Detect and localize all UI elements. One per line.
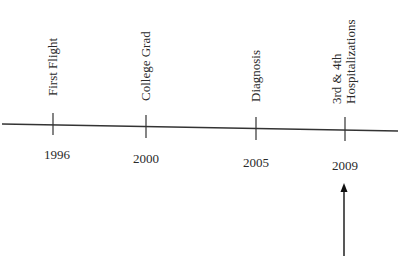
timeline-axis xyxy=(2,124,398,131)
year-label-1996: 1996 xyxy=(44,147,70,163)
event-label-college-grad: College Grad xyxy=(139,31,153,101)
year-label-2005: 2005 xyxy=(243,155,269,171)
event-label-first-flight: First Flight xyxy=(46,38,60,96)
arrow-up-icon xyxy=(341,183,348,256)
year-label-2009: 2009 xyxy=(332,158,358,174)
event-label-hospitalizations: 3rd & 4th Hospitalizations xyxy=(330,20,358,105)
timeline-diagram: First Flight College Grad Diagnosis 3rd … xyxy=(0,0,419,275)
event-label-diagnosis: Diagnosis xyxy=(249,50,263,102)
year-label-2000: 2000 xyxy=(133,151,159,167)
